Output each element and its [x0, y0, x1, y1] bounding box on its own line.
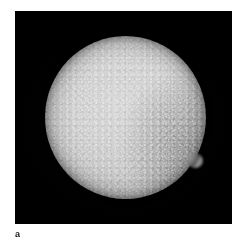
- disc-grain-texture: [45, 36, 206, 199]
- limb-protrusion-feature: [187, 153, 203, 168]
- figure-panel-root: a: [0, 0, 247, 247]
- panel-label: a: [15, 229, 20, 240]
- disc-image: [15, 11, 232, 224]
- image-panel: [15, 11, 232, 224]
